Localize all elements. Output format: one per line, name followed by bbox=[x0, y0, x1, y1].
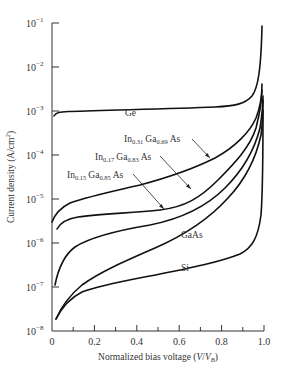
label-si: Si bbox=[181, 263, 189, 273]
x-tick-0.6: 0.6 bbox=[173, 336, 186, 347]
y-tick-1e-8: 10−8 bbox=[26, 324, 44, 337]
x-tick-0: 0 bbox=[50, 336, 55, 347]
arrow-in017 bbox=[160, 156, 191, 189]
x-tick-0.2: 0.2 bbox=[88, 336, 101, 347]
x-tick-labels: 0 0.2 0.4 0.6 0.8 1.0 bbox=[50, 336, 271, 347]
label-arrows bbox=[133, 139, 210, 209]
curve-ge bbox=[54, 26, 262, 116]
iv-chart: 10−1 10−2 10−3 10−4 10−5 10−6 10−7 10−8 … bbox=[0, 0, 286, 374]
x-tick-0.4: 0.4 bbox=[131, 336, 144, 347]
x-axis-title: Normalized bias voltage (V/VB) bbox=[98, 352, 218, 363]
y-tick-1e-1: 10−1 bbox=[26, 16, 44, 29]
y-tick-1e-3: 10−3 bbox=[26, 104, 44, 117]
label-ge: Ge bbox=[125, 108, 136, 118]
y-tick-labels: 10−1 10−2 10−3 10−4 10−5 10−6 10−7 10−8 bbox=[26, 16, 44, 337]
x-tick-1.0: 1.0 bbox=[258, 336, 271, 347]
label-in015: In0.15Ga0.85As bbox=[67, 170, 124, 181]
y-tick-1e-6: 10−6 bbox=[26, 236, 44, 249]
y-tick-1e-5: 10−5 bbox=[26, 192, 44, 205]
x-tick-0.8: 0.8 bbox=[215, 336, 228, 347]
label-in017: In0.17Ga0.83As bbox=[95, 152, 152, 163]
label-in031: In0.31Ga0.69As bbox=[124, 134, 181, 145]
curves bbox=[52, 26, 263, 319]
y-axis-title: Current density (A/cm2) bbox=[4, 131, 17, 223]
y-tick-1e-4: 10−4 bbox=[26, 148, 44, 161]
label-gaas: GaAs bbox=[181, 230, 203, 240]
y-tick-1e-7: 10−7 bbox=[26, 280, 44, 293]
y-tick-1e-2: 10−2 bbox=[26, 60, 44, 73]
